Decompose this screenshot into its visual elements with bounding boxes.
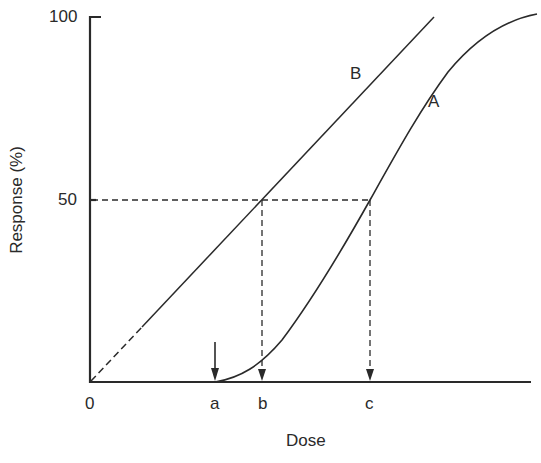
y-axis-label: Response (%)	[7, 146, 27, 254]
curve-label-a: A	[428, 93, 439, 110]
x-axis-label: Dose	[286, 432, 326, 449]
y-tick-label-100: 100	[49, 8, 77, 25]
x-tick-label-b: b	[258, 395, 267, 412]
arrow-c-icon	[366, 369, 374, 381]
arrow-b-icon	[258, 369, 266, 381]
x-tick-label-a: a	[210, 395, 219, 412]
x-tick-label-c: c	[365, 395, 374, 412]
x-tick-label-0: 0	[85, 395, 94, 412]
line-b	[91, 17, 434, 381]
threshold-arrow-a	[211, 342, 219, 381]
arrowheads	[258, 369, 374, 381]
reference-lines	[92, 200, 370, 371]
dose-response-chart	[0, 0, 541, 463]
y-tick-label-50: 50	[58, 191, 77, 208]
arrow-a-icon	[211, 368, 219, 381]
curve-label-b: B	[350, 65, 361, 82]
